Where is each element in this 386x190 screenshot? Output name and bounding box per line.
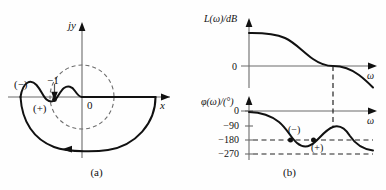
panel-nyquist: (−) (+) −1 0 x jy (a) bbox=[0, 0, 193, 190]
phase-tick-label-minus90: −90 bbox=[223, 120, 239, 131]
phase-y-axis-arrow-icon bbox=[246, 96, 253, 105]
phase-y-axis-label: φ(ω)/(°) bbox=[201, 96, 234, 108]
crossing-minus-label: (−) bbox=[14, 78, 28, 91]
figure-container: (−) (+) −1 0 x jy (a) 0 L(ω)/dB bbox=[0, 0, 386, 190]
magnitude-curve bbox=[249, 33, 373, 88]
phase-x-axis-arrow-icon bbox=[368, 108, 377, 115]
phase-crossing-minus-label: (−) bbox=[288, 124, 300, 136]
phase-tick-label-0: 0 bbox=[234, 105, 239, 116]
crossing-plus-label: (+) bbox=[33, 102, 47, 115]
panel-b-caption: (b) bbox=[193, 166, 386, 178]
critical-point-label: −1 bbox=[47, 74, 59, 86]
panel-bode: 0 L(ω)/dB ω bbox=[193, 0, 386, 190]
magnitude-x-axis-label: ω bbox=[367, 70, 374, 81]
real-axis-label: x bbox=[159, 99, 165, 111]
magnitude-y-axis-arrow-icon bbox=[246, 18, 253, 27]
magnitude-y-axis-label: L(ω)/dB bbox=[203, 13, 237, 25]
phase-x-axis-label: ω bbox=[367, 115, 374, 126]
phase-tick-label-minus270: −270 bbox=[218, 148, 239, 159]
critical-point-dot bbox=[52, 97, 57, 102]
magnitude-x-axis-arrow-icon bbox=[368, 63, 377, 70]
phase-tick-label-minus180: −180 bbox=[218, 134, 239, 145]
nyquist-plot-svg: (−) (+) −1 0 x jy bbox=[0, 0, 193, 166]
panel-a-caption: (a) bbox=[0, 166, 193, 178]
phase-negative-crossing-dot bbox=[288, 138, 293, 143]
imag-axis-label: jy bbox=[66, 19, 76, 31]
magnitude-zero-tick-label: 0 bbox=[232, 61, 237, 72]
nyquist-direction-arrow-icon bbox=[62, 146, 72, 153]
phase-crossing-plus-label: (+) bbox=[311, 142, 323, 154]
bode-plot-svg: 0 L(ω)/dB ω bbox=[193, 0, 386, 166]
imag-axis-arrow-icon bbox=[79, 22, 86, 31]
origin-label: 0 bbox=[87, 99, 93, 111]
